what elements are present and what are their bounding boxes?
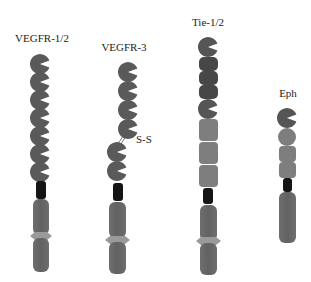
kinase-domain-1 <box>200 205 217 241</box>
egf-domain-3 <box>199 85 218 99</box>
receptor-vegfr-1-2 <box>30 54 52 272</box>
egf-domain-2 <box>199 71 218 85</box>
receptor-tie-1-2 <box>196 37 221 275</box>
fn3-domain-2 <box>279 162 296 178</box>
cysteine-rich-domain <box>278 128 296 146</box>
kinase-domain-2 <box>33 238 49 272</box>
kinase-domain-1 <box>109 202 126 238</box>
fn3-domain-2 <box>199 142 218 164</box>
receptor-eph <box>277 108 296 243</box>
ig-domain-1 <box>198 37 217 57</box>
ig-domain <box>277 108 296 128</box>
transmembrane-segment <box>283 178 292 192</box>
receptor-vegfr-3 <box>105 62 137 274</box>
receptor-diagram <box>0 0 311 282</box>
transmembrane-segment <box>113 183 123 201</box>
fn3-domain-1 <box>199 119 218 141</box>
ig-domain-2 <box>198 99 217 119</box>
fn3-domain-3 <box>199 165 218 187</box>
transmembrane-segment <box>36 181 46 199</box>
kinase-domain <box>279 192 296 243</box>
transmembrane-segment <box>203 188 213 204</box>
fn3-domain-1 <box>279 146 296 162</box>
kinase-domain-1 <box>33 199 49 235</box>
ig-domains <box>30 54 49 182</box>
ig-domains-upper <box>118 62 137 139</box>
egf-domain-1 <box>199 57 218 71</box>
kinase-domain-2 <box>200 243 217 275</box>
ig-domains-lower <box>107 142 126 181</box>
kinase-domain-2 <box>109 242 126 274</box>
